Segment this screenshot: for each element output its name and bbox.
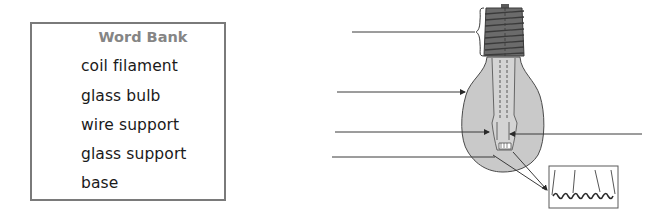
- base-shape: [484, 4, 524, 56]
- glass-support-shape: [492, 58, 517, 150]
- base-brace: [476, 8, 484, 56]
- filament-inset: [549, 166, 618, 208]
- light-bulb-diagram: [0, 0, 660, 215]
